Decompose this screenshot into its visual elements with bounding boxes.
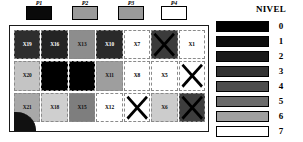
grid-cell-x18[interactable]: X18 <box>41 93 67 122</box>
cross-out-icon <box>125 94 149 121</box>
legend-swatch <box>216 66 269 77</box>
cell-label: X19 <box>23 42 32 47</box>
main-enclosure: X19X16X13X10X7X1X20X11X8X5X21X18X15X12X6 <box>9 25 209 132</box>
port-swatch <box>118 6 144 20</box>
legend-panel: NIVEL 01234567 <box>216 4 300 140</box>
cross-out-icon <box>180 62 204 89</box>
grid-cell-x11[interactable]: X11 <box>96 61 122 90</box>
legend-level-number: 2 <box>269 52 293 61</box>
grid-cell-x14[interactable] <box>69 61 95 90</box>
port-p4[interactable]: P4 <box>161 6 187 20</box>
port-p2[interactable]: P2 <box>72 6 98 20</box>
legend-title: NIVEL <box>256 5 286 14</box>
grid-cell-x15[interactable]: X15 <box>69 93 95 122</box>
legend-level-number: 5 <box>269 97 293 106</box>
cell-label: X1 <box>189 42 195 47</box>
cell-label: X12 <box>105 105 114 110</box>
legend-level-number: 7 <box>269 127 293 136</box>
cell-label: X13 <box>78 42 87 47</box>
cell-label: X7 <box>134 42 140 47</box>
grid-cell-x16[interactable]: X16 <box>41 30 67 59</box>
grid-cell-x20[interactable]: X20 <box>14 61 40 90</box>
port-p3[interactable]: P3 <box>118 6 144 20</box>
legend-level-number: 3 <box>269 67 293 76</box>
legend-swatch <box>216 126 269 137</box>
port-swatch <box>26 6 52 20</box>
cross-out-icon <box>180 94 204 121</box>
grid-cell-x19[interactable]: X19 <box>14 30 40 59</box>
port-swatch <box>161 6 187 20</box>
port-label: P1 <box>36 0 42 6</box>
legend-entries: 01234567 <box>216 19 300 139</box>
grid-cell-x12[interactable]: X12 <box>96 93 122 122</box>
grid-cell-x8[interactable]: X8 <box>124 61 150 90</box>
grid-cell-x1[interactable]: X1 <box>179 30 205 59</box>
legend-level-number: 6 <box>269 112 293 121</box>
legend-swatch <box>216 21 269 32</box>
legend-level-number: 1 <box>269 37 293 46</box>
cell-grid: X19X16X13X10X7X1X20X11X8X5X21X18X15X12X6 <box>14 30 205 122</box>
legend-swatch <box>216 81 269 92</box>
grid-cell-x6[interactable]: X6 <box>151 93 177 122</box>
grid-cell-x4[interactable] <box>151 30 177 59</box>
cell-label: X15 <box>78 105 87 110</box>
port-label: P4 <box>171 0 177 6</box>
cell-label: X11 <box>105 73 114 78</box>
legend-row-level-7: 7 <box>216 124 300 138</box>
figure-canvas: P1P2P3P4 X19X16X13X10X7X1X20X11X8X5X21X1… <box>0 0 303 142</box>
legend-row-level-4: 4 <box>216 79 300 93</box>
cell-label: X21 <box>23 105 32 110</box>
cell-label: X16 <box>50 42 59 47</box>
cell-label: X8 <box>134 73 140 78</box>
port-swatch <box>72 6 98 20</box>
legend-row-level-5: 5 <box>216 94 300 108</box>
legend-level-number: 0 <box>269 22 293 31</box>
grid-cell-x3[interactable] <box>179 93 205 122</box>
grid-cell-x7[interactable]: X7 <box>124 30 150 59</box>
legend-row-level-3: 3 <box>216 64 300 78</box>
grid-cell-x17[interactable] <box>41 61 67 90</box>
grid-cell-x2[interactable] <box>179 61 205 90</box>
legend-row-level-6: 6 <box>216 109 300 123</box>
cell-label: X20 <box>23 73 32 78</box>
grid-cell-x13[interactable]: X13 <box>69 30 95 59</box>
legend-swatch <box>216 111 269 122</box>
cell-label: X6 <box>161 105 167 110</box>
port-p1[interactable]: P1 <box>26 6 52 20</box>
legend-swatch <box>216 96 269 107</box>
legend-level-number: 4 <box>269 82 293 91</box>
cell-label: X18 <box>50 105 59 110</box>
cross-out-icon <box>152 31 176 58</box>
port-row: P1P2P3P4 <box>0 0 213 26</box>
legend-swatch <box>216 51 269 62</box>
legend-row-level-0: 0 <box>216 19 300 33</box>
port-label: P2 <box>82 0 88 6</box>
grid-cell-x9[interactable] <box>124 93 150 122</box>
legend-row-level-1: 1 <box>216 34 300 48</box>
grid-cell-x10[interactable]: X10 <box>96 30 122 59</box>
cell-label: X10 <box>105 42 114 47</box>
cell-label: X5 <box>161 73 167 78</box>
legend-row-level-2: 2 <box>216 49 300 63</box>
port-label: P3 <box>128 0 134 6</box>
grid-cell-x5[interactable]: X5 <box>151 61 177 90</box>
legend-swatch <box>216 36 269 47</box>
